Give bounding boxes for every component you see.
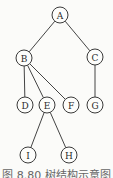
- node-a: A: [52, 7, 68, 23]
- node-label: A: [56, 11, 64, 21]
- node-label: G: [91, 101, 98, 111]
- tree-edges: [24, 21, 95, 148]
- edge-e-i: [31, 112, 44, 147]
- edge-e-h: [50, 112, 66, 147]
- node-label: E: [44, 101, 51, 111]
- edge-a-c: [65, 21, 90, 51]
- node-label: D: [21, 101, 28, 111]
- node-label: I: [26, 151, 30, 161]
- node-label: F: [68, 101, 74, 111]
- node-c: C: [87, 49, 103, 65]
- node-e: E: [39, 97, 55, 113]
- tree-nodes: ABCDEFGIH: [16, 7, 103, 163]
- node-label: B: [21, 54, 28, 64]
- node-i: I: [20, 147, 36, 163]
- node-g: G: [87, 97, 103, 113]
- node-f: F: [63, 97, 79, 113]
- node-label: C: [92, 53, 99, 63]
- tree-diagram: ABCDEFGIH: [0, 0, 113, 178]
- node-label: H: [65, 151, 73, 161]
- edge-a-b: [29, 21, 55, 52]
- edge-b-d: [24, 66, 25, 97]
- node-d: D: [17, 97, 33, 113]
- figure-caption: 图 8.80 树结构示意图: [0, 166, 113, 178]
- node-h: H: [61, 147, 77, 163]
- node-b: B: [16, 50, 32, 66]
